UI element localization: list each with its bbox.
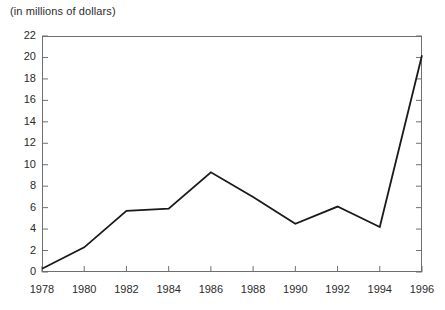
y-tick-label: 16	[6, 94, 36, 105]
y-tick-label: 18	[6, 73, 36, 84]
x-axis-tick-marks	[42, 266, 422, 272]
chart-svg-layer	[0, 0, 445, 310]
y-tick-label: 14	[6, 116, 36, 127]
y-axis-tick-marks	[42, 36, 422, 272]
y-tick-label: 8	[6, 180, 36, 191]
y-tick-label: 22	[6, 30, 36, 41]
y-tick-label: 4	[6, 223, 36, 234]
x-tick-label: 1996	[397, 284, 445, 295]
line-chart: (in millions of dollars) 024681012141618…	[0, 0, 445, 310]
y-tick-label: 2	[6, 245, 36, 256]
y-tick-label: 20	[6, 51, 36, 62]
y-tick-label: 0	[6, 266, 36, 277]
data-series-line	[42, 55, 422, 268]
y-tick-label: 12	[6, 137, 36, 148]
y-tick-label: 10	[6, 159, 36, 170]
y-tick-label: 6	[6, 202, 36, 213]
